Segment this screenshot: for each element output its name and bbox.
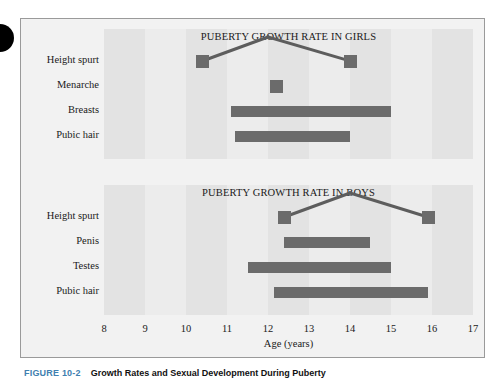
range-bar (284, 237, 370, 248)
x-tick-label: 8 (92, 323, 116, 334)
x-tick-label: 11 (215, 323, 239, 334)
row-label-menarche: Menarche (21, 79, 99, 90)
x-tick-label: 9 (133, 323, 157, 334)
x-tick-label: 12 (256, 323, 280, 334)
height-spurt-curve (21, 177, 493, 327)
x-tick-label: 16 (420, 323, 444, 334)
range-bar (235, 131, 350, 142)
figure-caption-number: FIGURE 10-2 (24, 368, 81, 378)
row-label-pubic-hair: Pubic hair (21, 129, 99, 140)
x-tick-label: 15 (379, 323, 403, 334)
x-tick-label: 10 (174, 323, 198, 334)
row-label-breasts: Breasts (21, 104, 99, 115)
x-tick-label: 13 (297, 323, 321, 334)
spurt-start-marker (278, 211, 291, 224)
x-axis-title: Age (years) (104, 338, 473, 349)
range-bar (231, 106, 391, 117)
row-label-penis: Penis (21, 235, 99, 246)
figure-caption: FIGURE 10-2 Growth Rates and Sexual Deve… (24, 368, 484, 378)
event-marker (270, 80, 283, 93)
x-axis: 891011121314151617 Age (years) (21, 323, 484, 357)
range-bar (274, 287, 428, 298)
row-label-pubic-hair: Pubic hair (21, 285, 99, 296)
x-tick-label: 14 (338, 323, 362, 334)
figure-caption-title: Growth Rates and Sexual Development Duri… (91, 368, 326, 378)
decorative-corner-dot (0, 24, 14, 52)
range-bar (248, 262, 392, 273)
figure-frame: PUBERTY GROWTH RATE IN GIRLS Height spur… (20, 18, 485, 358)
spurt-end-marker (344, 55, 357, 68)
chart-panel-boys: PUBERTY GROWTH RATE IN BOYS Height spurt… (21, 177, 484, 323)
spurt-start-marker (196, 55, 209, 68)
chart-panel-girls: PUBERTY GROWTH RATE IN GIRLS Height spur… (21, 21, 484, 167)
height-spurt-curve (21, 21, 493, 171)
row-label-testes: Testes (21, 260, 99, 271)
x-tick-label: 17 (461, 323, 485, 334)
spurt-end-marker (422, 211, 435, 224)
